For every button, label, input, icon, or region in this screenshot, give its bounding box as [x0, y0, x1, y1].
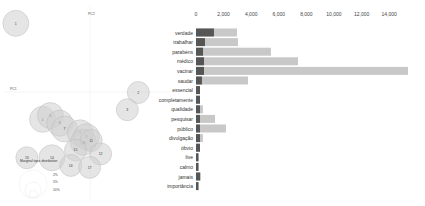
term-label[interactable]: parabéns [172, 49, 193, 55]
term-label[interactable]: trabalhar [173, 39, 193, 45]
x-tick-label: 14,000 [382, 11, 398, 17]
overall-frequency-bar[interactable] [196, 48, 271, 56]
term-label[interactable]: divulgação [169, 135, 193, 141]
term-label[interactable]: jamais [178, 174, 194, 180]
x-tick-label: 12,000 [354, 11, 370, 17]
bar-rows: verdadetrabalharparabénsmédicovacinarsau… [159, 29, 408, 191]
bar-row-5[interactable]: saudar [178, 77, 248, 85]
x-tick-label: 8,000 [300, 11, 313, 17]
term-label[interactable]: importância [167, 183, 193, 189]
bar-row-2[interactable]: parabéns [172, 48, 271, 56]
term-label[interactable]: saudar [178, 78, 194, 84]
topic-frequency-bar[interactable] [196, 163, 198, 171]
topic-circles: 1234567891011121314151617 [3, 10, 149, 178]
bar-row-3[interactable]: médico [177, 57, 298, 65]
legend-title: Marginal topic distribution [20, 159, 58, 163]
bar-row-10[interactable]: público [177, 125, 226, 133]
bar-row-8[interactable]: qualidade [171, 105, 203, 113]
term-label[interactable]: vacinar [177, 68, 193, 74]
topic-frequency-bar[interactable] [196, 173, 200, 181]
bar-row-11[interactable]: divulgação [169, 134, 203, 142]
bar-row-12[interactable]: óbvio [181, 144, 200, 152]
topic-number-label: 2 [137, 91, 139, 95]
topic-frequency-bar[interactable] [196, 153, 198, 161]
bar-row-4[interactable]: vacinar [177, 67, 408, 75]
term-label[interactable]: qualidade [171, 106, 193, 112]
topic-circle-3[interactable]: 3 [116, 99, 138, 121]
overall-frequency-bar[interactable] [196, 67, 408, 75]
x-tick-label: 6,000 [273, 11, 286, 17]
bar-row-9[interactable]: pesquisar [171, 115, 215, 123]
topic-number-label: 12 [99, 152, 103, 156]
overall-frequency-bar[interactable] [196, 77, 248, 85]
term-label[interactable]: calmo [180, 164, 194, 170]
term-label[interactable]: completamente [159, 97, 193, 103]
topic-circle-17[interactable]: 17 [79, 156, 101, 178]
bar-row-7[interactable]: completamente [159, 96, 200, 104]
topic-number-label: 1 [15, 22, 17, 26]
topic-frequency-bar[interactable] [196, 134, 200, 142]
bar-row-14[interactable]: calmo [180, 163, 199, 171]
topic-number-label: 3 [126, 108, 128, 112]
topic-number-label: 16 [69, 164, 73, 168]
topic-frequency-bar[interactable] [196, 57, 204, 65]
intertopic-distance-map: PC1 PC2 1234567891011121314151617 Margin… [0, 0, 175, 206]
bar-row-6[interactable]: essencial [172, 86, 200, 94]
term-label[interactable]: público [177, 126, 193, 132]
topic-circle-13[interactable]: 13 [16, 147, 38, 169]
x-tick-label: 2,000 [217, 11, 230, 17]
x-tick-label: 4,000 [245, 11, 258, 17]
pc2-label: PC2 [88, 12, 95, 16]
legend-circle-large [19, 170, 47, 198]
topic-circle-16[interactable]: 16 [60, 154, 82, 176]
x-axis-ticks: 02,0004,0006,0008,00010,00012,00014,000 [195, 11, 397, 17]
term-frequency-bar-chart: 02,0004,0006,0008,00010,00012,00014,000 … [150, 0, 425, 206]
bar-row-1[interactable]: trabalhar [173, 38, 238, 46]
topic-frequency-bar[interactable] [196, 77, 202, 85]
topic-number-label: 7 [64, 127, 66, 131]
bar-row-13[interactable]: live [185, 153, 198, 161]
topic-frequency-bar[interactable] [196, 48, 203, 56]
bar-row-15[interactable]: jamais [178, 173, 201, 181]
bar-row-0[interactable]: verdade [175, 29, 237, 37]
pc1-label: PC1 [10, 87, 17, 91]
topic-number-label: 17 [88, 166, 92, 170]
topic-number-label: 11 [89, 139, 93, 143]
topic-frequency-bar[interactable] [196, 105, 200, 113]
term-label[interactable]: verdade [175, 30, 193, 36]
topic-frequency-bar[interactable] [196, 86, 200, 94]
overall-frequency-bar[interactable] [196, 57, 298, 65]
topic-frequency-bar[interactable] [196, 144, 200, 152]
bar-row-16[interactable]: importância [167, 182, 198, 190]
topic-frequency-bar[interactable] [196, 182, 198, 190]
topic-frequency-bar[interactable] [196, 29, 214, 37]
topic-frequency-bar[interactable] [196, 38, 205, 46]
term-label[interactable]: essencial [172, 87, 193, 93]
overall-frequency-bar[interactable] [196, 125, 226, 133]
topic-frequency-bar[interactable] [196, 96, 200, 104]
term-label[interactable]: pesquisar [171, 116, 193, 122]
topic-number-label: 15 [74, 148, 78, 152]
topic-circle-1[interactable]: 1 [3, 10, 29, 36]
legend-size-10pct: 10% [53, 188, 60, 192]
x-tick-label: 0 [195, 11, 198, 17]
legend-size-2pct: 2% [53, 173, 58, 177]
term-label[interactable]: óbvio [181, 145, 193, 151]
x-tick-label: 10,000 [326, 11, 342, 17]
topic-frequency-bar[interactable] [196, 115, 200, 123]
topic-frequency-bar[interactable] [196, 67, 204, 75]
topic-frequency-bar[interactable] [196, 125, 200, 133]
term-label[interactable]: live [185, 154, 193, 160]
legend-size-5pct: 5% [53, 180, 58, 184]
term-label[interactable]: médico [177, 58, 193, 64]
legend-circle-small [29, 190, 37, 198]
